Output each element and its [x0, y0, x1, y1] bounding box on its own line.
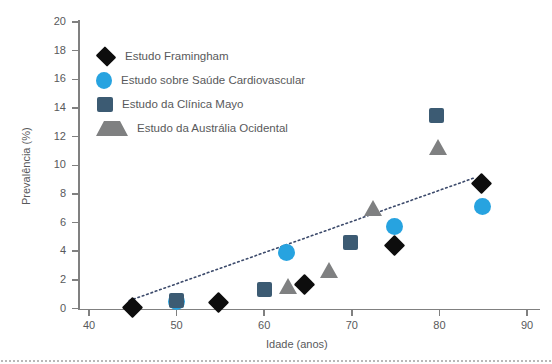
- y-axis-tick: [72, 165, 78, 167]
- x-axis-tick: [263, 310, 265, 316]
- scatter-chart: Prevalência (%) Idade (anos) Estudo Fram…: [0, 0, 552, 364]
- y-axis-tick: [72, 222, 78, 224]
- y-axis-tick: [72, 50, 78, 52]
- x-axis-tick-label: 60: [249, 320, 279, 331]
- data-point-estudo-da-clinica-mayo: [343, 235, 358, 250]
- trendline: [0, 0, 552, 364]
- x-axis-tick: [176, 310, 178, 316]
- y-axis-tick: [72, 136, 78, 138]
- data-point-estudo-sobre-saude-cardiovascular: [474, 198, 491, 215]
- y-axis-tick-label: 16: [40, 73, 66, 84]
- data-point-estudo-da-australia-ocidental: [364, 200, 382, 216]
- y-axis-tick: [72, 308, 78, 310]
- x-axis-tick-label: 50: [162, 320, 192, 331]
- y-axis-tick-label: 6: [40, 217, 66, 228]
- y-axis-tick-label: 0: [40, 303, 66, 314]
- data-point-estudo-da-australia-ocidental: [320, 262, 338, 278]
- data-point-estudo-sobre-saude-cardiovascular: [278, 244, 295, 261]
- y-axis-tick: [72, 193, 78, 195]
- y-axis-tick-label: 18: [40, 45, 66, 56]
- y-axis-tick-label: 12: [40, 131, 66, 142]
- data-point-estudo-da-clinica-mayo: [169, 293, 184, 308]
- data-point-estudo-da-australia-ocidental: [279, 278, 297, 294]
- x-axis-tick-label: 80: [424, 320, 454, 331]
- x-axis-tick-label: 90: [512, 320, 542, 331]
- data-point-estudo-da-australia-ocidental: [429, 139, 447, 155]
- y-axis-tick: [72, 107, 78, 109]
- x-axis-tick: [439, 310, 441, 316]
- y-axis-tick: [72, 79, 78, 81]
- y-axis-tick-label: 4: [40, 245, 66, 256]
- y-axis-tick-label: 20: [40, 16, 66, 27]
- y-axis-tick: [72, 21, 78, 23]
- x-axis-tick: [351, 310, 353, 316]
- x-axis-tick: [88, 310, 90, 316]
- y-axis-tick-label: 14: [40, 102, 66, 113]
- data-point-estudo-da-clinica-mayo: [429, 108, 444, 123]
- y-axis-tick-label: 2: [40, 274, 66, 285]
- y-axis-tick: [72, 250, 78, 252]
- y-axis-tick-label: 8: [40, 188, 66, 199]
- y-axis-tick: [72, 279, 78, 281]
- bottom-dotted-rule: [0, 360, 552, 362]
- y-axis-tick-label: 10: [40, 159, 66, 170]
- data-point-estudo-da-clinica-mayo: [257, 282, 272, 297]
- x-axis-tick: [526, 310, 528, 316]
- x-axis-tick-label: 70: [337, 320, 367, 331]
- x-axis-tick-label: 40: [74, 320, 104, 331]
